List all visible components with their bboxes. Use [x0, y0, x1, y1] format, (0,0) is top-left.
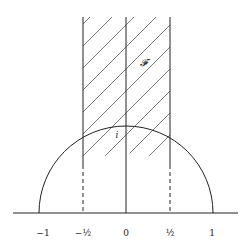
- hatched-region: [60, 0, 180, 245]
- tick-label-neg-one: −1: [36, 228, 49, 238]
- region-label: 𝓕: [140, 57, 151, 68]
- modular-domain-diagram: 𝓕 i −1 −½ 0 ½ 1: [0, 0, 251, 246]
- tick-label-one: 1: [209, 228, 215, 238]
- point-i-label: i: [116, 130, 119, 140]
- tick-label-half: ½: [166, 228, 175, 238]
- tick-label-neg-half: −½: [75, 228, 92, 238]
- tick-label-zero: 0: [123, 228, 129, 238]
